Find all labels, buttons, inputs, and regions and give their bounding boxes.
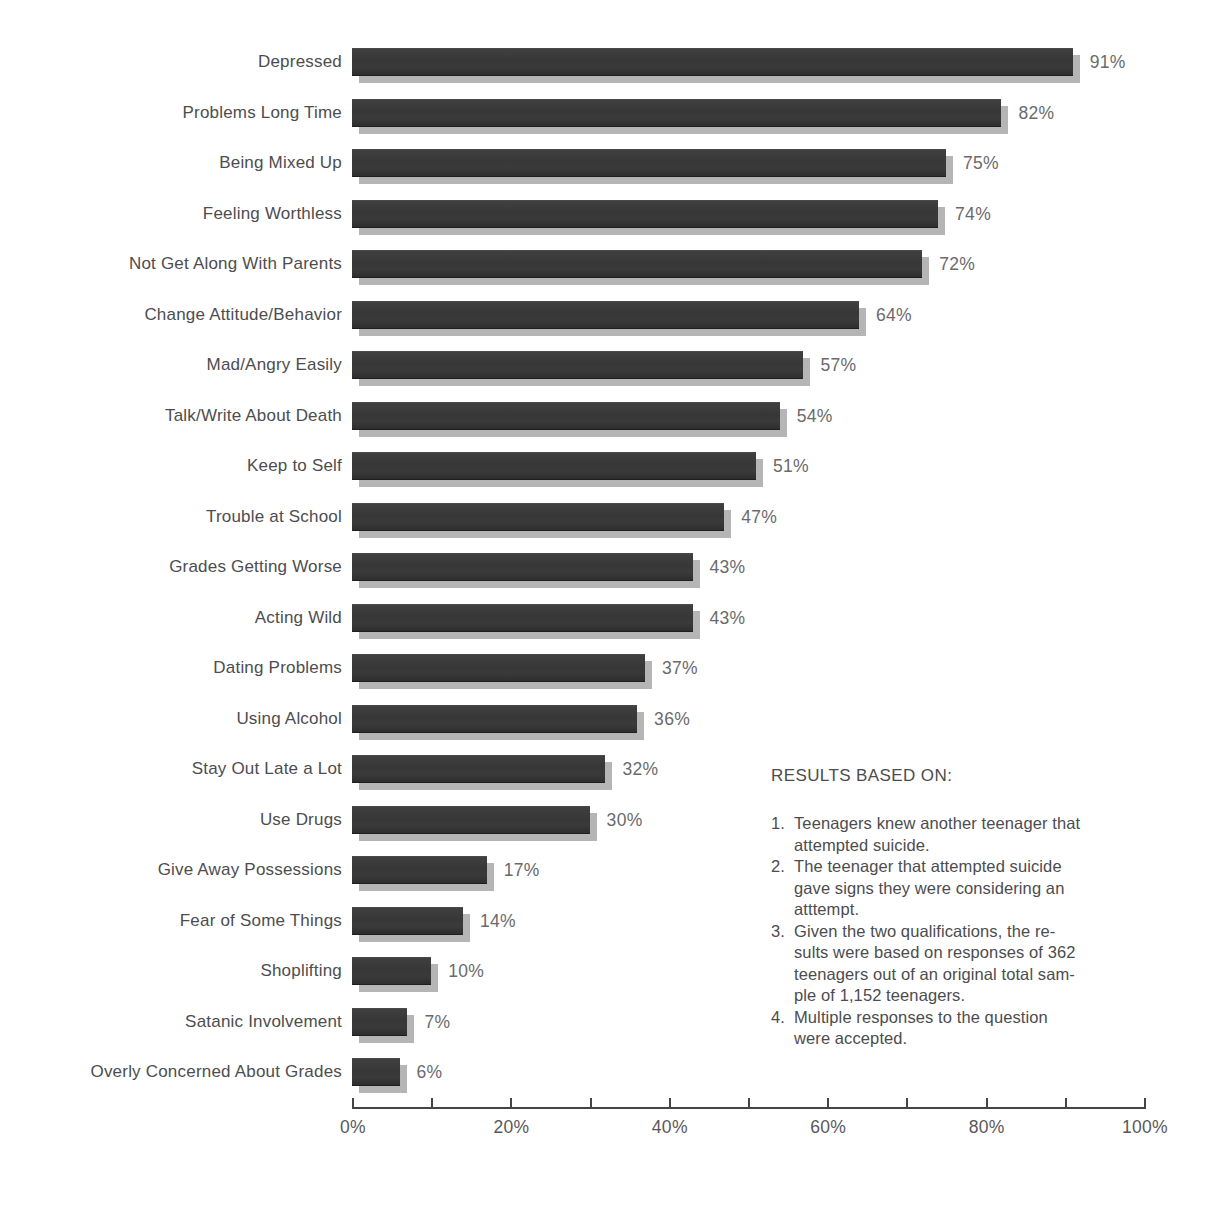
x-axis-tick — [352, 1098, 354, 1107]
bar-row: Using Alcohol36% — [0, 705, 1232, 733]
bar — [352, 856, 487, 884]
x-axis-tick-label: 40% — [630, 1117, 710, 1138]
value-label: 30% — [607, 806, 643, 834]
bar-chart-figure: Depressed91%Problems Long Time82%Being M… — [0, 0, 1232, 1207]
value-label: 57% — [820, 351, 856, 379]
bar — [352, 452, 756, 480]
bar — [352, 907, 463, 935]
note-item-text: Given the two qualifications, the re- su… — [794, 921, 1076, 1007]
x-axis-tick-label: 20% — [471, 1117, 551, 1138]
bar-row: Acting Wild43% — [0, 604, 1232, 632]
x-axis-tick-label: 0% — [313, 1117, 393, 1138]
note-item: 1.Teenagers knew another teenager that a… — [771, 813, 1227, 856]
category-label: Use Drugs — [0, 806, 342, 834]
category-label: Problems Long Time — [0, 99, 342, 127]
bar — [352, 806, 590, 834]
results-notes-title: RESULTS BASED ON: — [771, 766, 1227, 786]
bar — [352, 705, 637, 733]
category-label: Acting Wild — [0, 604, 342, 632]
bar — [352, 1008, 407, 1036]
note-item: 2.The teenager that attempted suicide ga… — [771, 856, 1227, 921]
value-label: 32% — [622, 755, 658, 783]
value-label: 37% — [662, 654, 698, 682]
note-item-text: Multiple responses to the question were … — [794, 1007, 1048, 1050]
bar-row: Depressed91% — [0, 48, 1232, 76]
bar-row: Being Mixed Up75% — [0, 149, 1232, 177]
category-label: Overly Concerned About Grades — [0, 1058, 342, 1086]
bar-row: Grades Getting Worse43% — [0, 553, 1232, 581]
results-notes-block: RESULTS BASED ON: 1.Teenagers knew anoth… — [771, 766, 1227, 1050]
value-label: 72% — [939, 250, 975, 278]
note-item-number: 1. — [771, 813, 794, 856]
note-item: 4.Multiple responses to the question wer… — [771, 1007, 1227, 1050]
bar — [352, 351, 803, 379]
value-label: 54% — [797, 402, 833, 430]
value-label: 17% — [504, 856, 540, 884]
x-axis-tick — [1065, 1098, 1067, 1107]
value-label: 47% — [741, 503, 777, 531]
category-label: Feeling Worthless — [0, 200, 342, 228]
category-label: Fear of Some Things — [0, 907, 342, 935]
note-item-number: 3. — [771, 921, 794, 1007]
value-label: 74% — [955, 200, 991, 228]
bar — [352, 301, 859, 329]
category-label: Not Get Along With Parents — [0, 250, 342, 278]
bar-row: Feeling Worthless74% — [0, 200, 1232, 228]
bar — [352, 604, 693, 632]
x-axis-tick — [510, 1098, 512, 1107]
x-axis-tick — [827, 1098, 829, 1107]
results-notes-list: 1.Teenagers knew another teenager that a… — [771, 813, 1227, 1050]
category-label: Using Alcohol — [0, 705, 342, 733]
x-axis-tick-label: 80% — [947, 1117, 1027, 1138]
x-axis-tick-label: 100% — [1105, 1117, 1185, 1138]
value-label: 10% — [448, 957, 484, 985]
bar — [352, 755, 605, 783]
note-item-text: Teenagers knew another teenager that att… — [794, 813, 1080, 856]
bar — [352, 99, 1001, 127]
bar — [352, 957, 431, 985]
bar-row: Not Get Along With Parents72% — [0, 250, 1232, 278]
category-label: Being Mixed Up — [0, 149, 342, 177]
x-axis-tick — [590, 1098, 592, 1107]
value-label: 51% — [773, 452, 809, 480]
bar-row: Talk/Write About Death54% — [0, 402, 1232, 430]
bar-row: Overly Concerned About Grades6% — [0, 1058, 1232, 1086]
value-label: 91% — [1090, 48, 1126, 76]
category-label: Give Away Possessions — [0, 856, 342, 884]
value-label: 64% — [876, 301, 912, 329]
bar — [352, 402, 780, 430]
bar — [352, 250, 922, 278]
category-label: Shoplifting — [0, 957, 342, 985]
x-axis-line — [352, 1107, 1146, 1109]
category-label: Mad/Angry Easily — [0, 351, 342, 379]
bar — [352, 553, 693, 581]
bar-row: Problems Long Time82% — [0, 99, 1232, 127]
category-label: Change Attitude/Behavior — [0, 301, 342, 329]
bar — [352, 654, 645, 682]
value-label: 7% — [424, 1008, 450, 1036]
x-axis-tick — [1144, 1098, 1146, 1107]
bar-row: Change Attitude/Behavior64% — [0, 301, 1232, 329]
value-label: 43% — [710, 553, 746, 581]
category-label: Dating Problems — [0, 654, 342, 682]
value-label: 14% — [480, 907, 516, 935]
category-label: Depressed — [0, 48, 342, 76]
note-item-number: 4. — [771, 1007, 794, 1050]
bar-row: Mad/Angry Easily57% — [0, 351, 1232, 379]
x-axis-tick-label: 60% — [788, 1117, 868, 1138]
note-item-text: The teenager that attempted suicide gave… — [794, 856, 1064, 921]
x-axis-tick — [669, 1098, 671, 1107]
bar — [352, 48, 1073, 76]
category-label: Satanic Involvement — [0, 1008, 342, 1036]
category-label: Stay Out Late a Lot — [0, 755, 342, 783]
note-item-number: 2. — [771, 856, 794, 921]
value-label: 36% — [654, 705, 690, 733]
category-label: Keep to Self — [0, 452, 342, 480]
value-label: 6% — [417, 1058, 443, 1086]
bar — [352, 200, 938, 228]
bar-row: Trouble at School47% — [0, 503, 1232, 531]
bar-row: Dating Problems37% — [0, 654, 1232, 682]
value-label: 75% — [963, 149, 999, 177]
category-label: Trouble at School — [0, 503, 342, 531]
x-axis-tick — [906, 1098, 908, 1107]
